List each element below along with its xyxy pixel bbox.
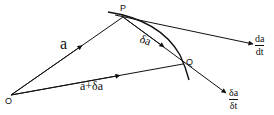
tangent-da-dt xyxy=(115,15,253,44)
derivative-label: da dt xyxy=(255,34,264,57)
point-o-label: O xyxy=(5,97,12,106)
difference-numerator: δa xyxy=(229,88,238,98)
vector-a-label: a xyxy=(60,36,67,52)
vector-derivative-diagram: O P Q a a+δa δa da dt δa δt xyxy=(0,0,274,115)
derivative-numerator: da xyxy=(255,34,264,44)
point-q-label: Q xyxy=(186,58,193,67)
difference-denominator: δt xyxy=(230,101,238,111)
point-p-label: P xyxy=(120,4,126,13)
vector-a-plus-delta-a-label: a+δa xyxy=(80,80,103,92)
difference-quotient-label: δa δt xyxy=(229,88,238,111)
derivative-denominator: dt xyxy=(256,47,264,57)
